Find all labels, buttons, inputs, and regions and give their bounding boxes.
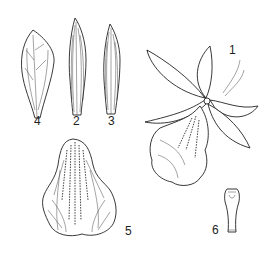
label-6: 6	[212, 224, 219, 236]
label-5: 5	[125, 225, 132, 237]
botanical-plate: 1 2 3 4 5 6	[0, 0, 274, 258]
illustration	[0, 0, 274, 258]
label-1: 1	[229, 44, 236, 56]
sepal-3	[104, 24, 120, 114]
petal-4	[21, 30, 54, 118]
lip-5	[43, 139, 117, 236]
label-3: 3	[108, 115, 115, 127]
label-4: 4	[34, 115, 41, 127]
column-6	[225, 189, 240, 232]
label-2: 2	[73, 115, 80, 127]
flower-1	[145, 46, 258, 185]
sepal-2	[69, 18, 86, 115]
